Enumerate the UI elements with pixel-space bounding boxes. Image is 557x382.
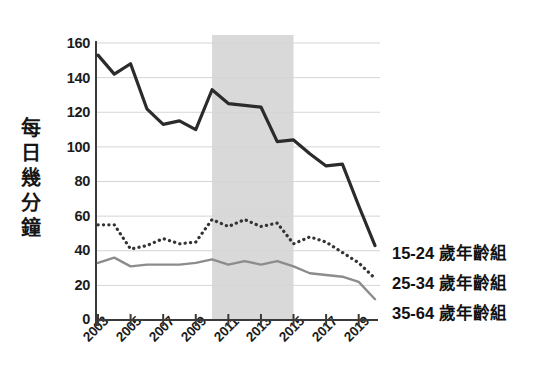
legend-item-25-34: 25-34 歲年齡組: [392, 270, 507, 294]
chart-container: 每 日 幾 分 鐘 160 140 120 100 80 60 40 20 0 …: [0, 0, 557, 382]
plot-area: [0, 0, 557, 382]
legend-item-15-24: 15-24 歲年齡組: [392, 240, 507, 264]
legend-item-35-64: 35-64 歲年齡組: [392, 300, 507, 324]
